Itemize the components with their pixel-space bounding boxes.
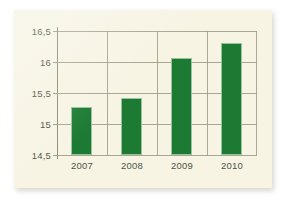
bar-chart: 16,5 16 15,5 15 14,5 2007 [14,10,272,188]
category-gridline-4 [256,31,257,155]
category-gridline-2 [157,31,158,155]
y-tick-label-16: 16 [40,57,51,68]
bar-2010[interactable] [221,43,242,155]
gridline-14-5 [57,155,257,156]
x-tick-label-2009: 2009 [171,160,193,171]
y-tick-label-15-5: 15,5 [32,88,51,99]
y-tick-label-16-5: 16,5 [32,26,51,37]
y-tick-label-15: 15 [40,119,51,130]
chart-page: 16,5 16 15,5 15 14,5 2007 [0,0,290,202]
bar-2009[interactable] [171,58,192,155]
y-tick-label-14-5: 14,5 [32,150,51,161]
bar-2007[interactable] [71,107,92,155]
x-tick-label-2007: 2007 [71,160,93,171]
y-axis-labels: 16,5 16 15,5 15 14,5 [14,31,51,155]
x-tick-label-2008: 2008 [121,160,143,171]
bar-2008[interactable] [121,98,142,155]
x-axis-labels: 2007 2008 2009 2010 [57,160,257,176]
plot-area [57,31,257,155]
category-gridline-1 [107,31,108,155]
category-gridline-3 [207,31,208,155]
x-tick-label-2010: 2010 [221,160,243,171]
